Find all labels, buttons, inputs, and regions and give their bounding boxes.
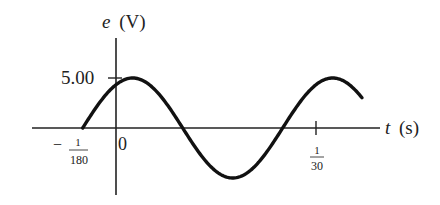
x-tick-label-neg-1-180-sign: − (53, 136, 62, 153)
y-axis-label: e (V) (102, 11, 146, 33)
sine-wave-chart: e (V) t (s) 5.00 0 − 1 180 1 30 (0, 0, 440, 205)
x-tick-label-neg-1-180-den: 180 (70, 153, 88, 167)
x-axis-label: t (s) (385, 117, 419, 139)
origin-label: 0 (118, 134, 127, 154)
y-tick-label: 5.00 (61, 67, 94, 88)
x-tick-label-1-30-num: 1 (314, 144, 320, 156)
x-tick-label-neg-1-180-num: 1 (75, 136, 81, 148)
x-tick-label-1-30-den: 30 (311, 159, 323, 173)
